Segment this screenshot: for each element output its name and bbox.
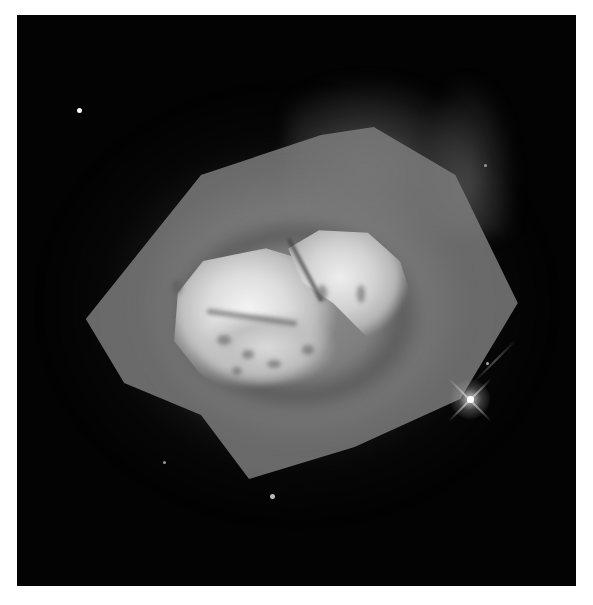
dust-knot bbox=[172, 280, 182, 294]
dust-knot bbox=[217, 335, 231, 345]
dust-knot bbox=[242, 350, 254, 359]
nebula-image-frame bbox=[17, 15, 576, 586]
star-icon bbox=[270, 494, 275, 499]
dust-knot bbox=[357, 285, 365, 303]
bright-star-icon bbox=[467, 396, 474, 403]
star-icon bbox=[163, 461, 166, 464]
dust-knot bbox=[267, 360, 281, 368]
star-icon bbox=[484, 164, 487, 167]
dust-knot bbox=[232, 367, 242, 375]
dust-knot bbox=[302, 345, 314, 355]
nebula-core-lower bbox=[197, 315, 337, 395]
star-icon bbox=[77, 108, 82, 113]
dust-knot bbox=[317, 285, 327, 301]
